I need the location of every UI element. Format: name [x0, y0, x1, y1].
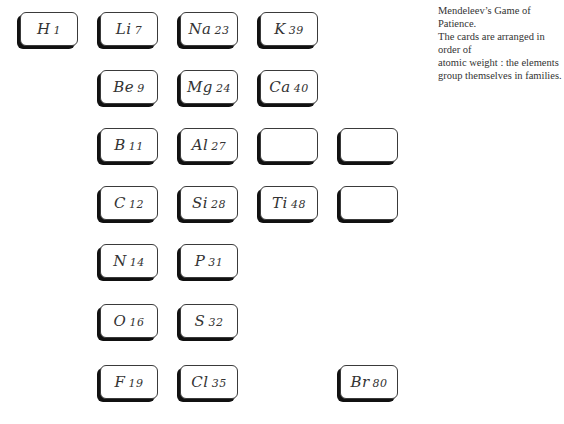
atomic-weight: 14: [130, 256, 145, 269]
atomic-weight: 27: [211, 140, 226, 153]
card-h: H1: [20, 12, 78, 46]
atomic-weight: 28: [211, 198, 226, 211]
card-p: P31: [180, 244, 238, 278]
card-br: Br80: [340, 365, 398, 399]
atomic-weight: 39: [289, 24, 304, 37]
atomic-weight: 31: [208, 256, 223, 269]
atomic-weight: 40: [294, 82, 309, 95]
card-si: Si28: [180, 186, 238, 220]
atomic-weight: 12: [129, 198, 144, 211]
element-symbol: B: [114, 136, 126, 154]
caption-line-4: group themselves in families.: [438, 69, 562, 82]
element-symbol: F: [115, 373, 126, 391]
card-cl: Cl35: [180, 365, 238, 399]
element-symbol: Li: [116, 20, 132, 38]
card-b: B11: [100, 128, 158, 162]
atomic-weight: 48: [291, 198, 306, 211]
card-blank: [340, 128, 398, 162]
element-symbol: S: [195, 312, 206, 330]
card-mg: Mg24: [180, 70, 238, 104]
caption-line-2: The cards are arranged in order of: [438, 30, 562, 56]
card-be: Be9: [100, 70, 158, 104]
element-symbol: Be: [113, 78, 134, 96]
element-symbol: Mg: [187, 78, 213, 96]
element-symbol: P: [195, 252, 206, 270]
atomic-weight: 23: [215, 24, 230, 37]
element-symbol: Si: [192, 194, 208, 212]
card-k: K39: [260, 12, 318, 46]
card-blank: [260, 128, 318, 162]
atomic-weight: 19: [128, 377, 143, 390]
card-f: F19: [100, 365, 158, 399]
element-symbol: K: [274, 20, 286, 38]
element-symbol: Ca: [269, 78, 290, 96]
element-symbol: C: [114, 194, 126, 212]
element-symbol: N: [113, 252, 127, 270]
card-al: Al27: [180, 128, 238, 162]
atomic-weight: 11: [129, 140, 144, 153]
card-n: N14: [100, 244, 158, 278]
card-blank: [340, 186, 398, 220]
atomic-weight: 9: [137, 82, 145, 95]
element-symbol: O: [114, 312, 127, 330]
atomic-weight: 7: [135, 24, 143, 37]
element-symbol: Na: [188, 20, 211, 38]
element-symbol: Al: [192, 136, 209, 154]
atomic-weight: 80: [373, 377, 388, 390]
card-ti: Ti48: [260, 186, 318, 220]
card-ca: Ca40: [260, 70, 318, 104]
atomic-weight: 24: [216, 82, 231, 95]
caption-line-3: atomic weight : the elements: [438, 56, 562, 69]
atomic-weight: 16: [129, 316, 144, 329]
element-symbol: H: [37, 20, 51, 38]
atomic-weight: 1: [54, 24, 62, 37]
card-c: C12: [100, 186, 158, 220]
element-symbol: Br: [350, 373, 369, 391]
caption-line-1: Mendeleev’s Game of Patience.: [438, 4, 562, 30]
element-symbol: Cl: [191, 373, 208, 391]
card-li: Li7: [100, 12, 158, 46]
element-symbol: Ti: [272, 194, 288, 212]
card-o: O16: [100, 304, 158, 338]
atomic-weight: 32: [208, 316, 223, 329]
atomic-weight: 35: [212, 377, 227, 390]
card-na: Na23: [180, 12, 238, 46]
card-s: S32: [180, 304, 238, 338]
caption: Mendeleev’s Game of Patience. The cards …: [438, 4, 562, 82]
